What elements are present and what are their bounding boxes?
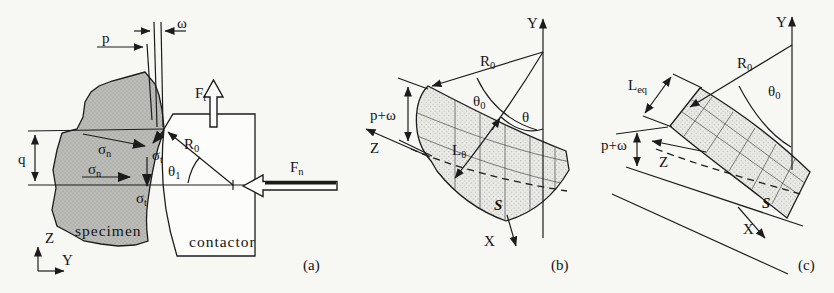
p-omega-label-b: p+ω xyxy=(370,107,396,123)
fig-c-p-omega-dimension: p+ω xyxy=(601,127,668,166)
l-eq-label: Leq xyxy=(628,77,648,95)
fig-b-r0-line: R0 xyxy=(432,52,543,86)
r0-label-b: R0 xyxy=(480,53,495,71)
ft-label: Ft xyxy=(195,85,206,103)
x-axis-label-b: X xyxy=(484,233,495,249)
contactor-label: contactor xyxy=(189,233,256,250)
fn-label: Fn xyxy=(290,159,304,177)
caption-a: (a) xyxy=(303,257,320,274)
p-omega-label-c: p+ω xyxy=(601,137,627,153)
y-axis-label-c: Y xyxy=(776,14,787,30)
fig-c-equivalent-surface: Y R0 θ0 Leq p+ω Z xyxy=(601,14,815,274)
theta-label-b: θ xyxy=(522,109,529,125)
theta0-label-c: θ0 xyxy=(768,83,780,101)
z-axis-label-b: Z xyxy=(370,140,379,156)
fretting-contact-diagram: p ω q σn σn σt σt xyxy=(0,0,834,293)
fn-force-arrow: Fn xyxy=(243,159,337,197)
theta0-label-b: θ0 xyxy=(473,93,485,111)
z-axis-label-c: Z xyxy=(659,154,668,170)
x-axis-label-c: X xyxy=(743,221,754,237)
y-axis-label-a: Y xyxy=(62,252,73,268)
omega-label: ω xyxy=(177,15,187,31)
fig-b-curved-surface: Y R0 Lθ θ0 θ p+ω xyxy=(366,15,575,274)
specimen-label: specimen xyxy=(75,222,142,239)
s-label-b: S xyxy=(494,197,502,213)
paper-figure: p ω q σn σn σt σt xyxy=(0,0,834,293)
fig-a-axes: Z Y xyxy=(38,230,73,271)
y-axis-label-b: Y xyxy=(527,15,538,31)
p-dimension: p xyxy=(97,30,143,47)
surface-b xyxy=(416,86,569,221)
q-label: q xyxy=(18,151,26,167)
r0-label-c: R0 xyxy=(737,55,752,73)
caption-b: (b) xyxy=(551,257,569,274)
sigma-t-upper-label: σt xyxy=(152,147,163,165)
fig-a-specimen-contactor: p ω q σn σn σt σt xyxy=(18,15,337,274)
s-label-c: S xyxy=(762,195,770,211)
z-axis-label-a: Z xyxy=(45,230,54,246)
caption-c: (c) xyxy=(798,257,815,274)
p-label: p xyxy=(102,30,110,46)
fig-b-x-axis: X xyxy=(484,215,516,249)
